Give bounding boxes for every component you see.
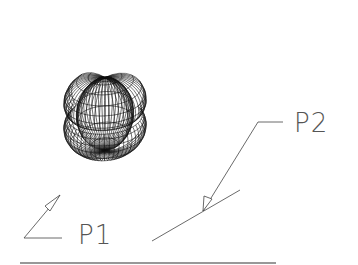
p2-leader <box>152 122 283 241</box>
p1-leader <box>24 195 62 238</box>
surface-mesh <box>64 73 146 161</box>
label-p2: P2 <box>294 110 328 136</box>
label-p1: P1 <box>78 222 112 248</box>
